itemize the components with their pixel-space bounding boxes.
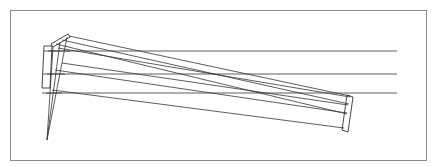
return-ray-2 bbox=[55, 70, 347, 113]
return-ray-4 bbox=[62, 63, 348, 105]
ray-trace-diagram bbox=[0, 0, 439, 167]
diagonal-ray-2 bbox=[62, 40, 349, 104]
diagonal-ray-1 bbox=[69, 36, 350, 96]
return-ray-1 bbox=[58, 48, 350, 97]
diagonal-ray-3 bbox=[56, 44, 347, 114]
return-ray-3 bbox=[52, 90, 344, 128]
rays bbox=[42, 36, 397, 140]
